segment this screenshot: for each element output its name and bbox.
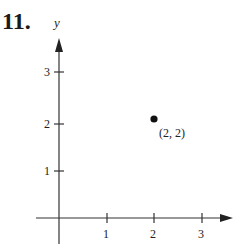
x-axis-arrow-icon (220, 214, 233, 222)
y-ticks: 1 2 3 (44, 65, 64, 178)
coordinate-plot: y 1 2 3 1 2 3 (2, 2) (0, 0, 233, 251)
data-point (150, 115, 157, 122)
y-tick-label: 1 (44, 164, 50, 178)
x-tick-label: 1 (103, 227, 109, 241)
x-tick-label: 3 (198, 227, 204, 241)
x-tick-label: 2 (150, 227, 156, 241)
y-axis-arrow-icon (55, 38, 63, 52)
y-tick-label: 2 (44, 117, 50, 131)
y-tick-label: 3 (44, 65, 50, 79)
point-label: (2, 2) (159, 126, 185, 140)
y-axis-label: y (52, 15, 60, 30)
x-ticks: 1 2 3 (103, 213, 204, 241)
